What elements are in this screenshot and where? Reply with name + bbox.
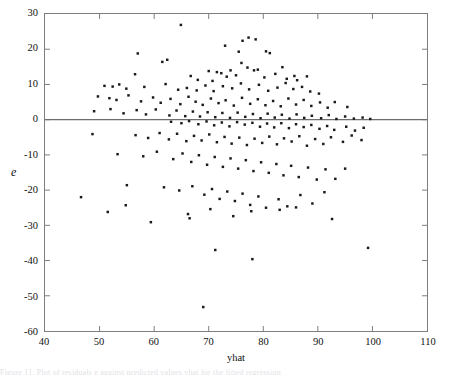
ytick-label-30: 30: [20, 8, 38, 19]
xtick-label-90: 90: [313, 337, 324, 348]
xtick-label-60: 60: [148, 337, 159, 348]
xtick-label-50: 50: [94, 337, 105, 348]
ytick-label-n20: -20: [14, 185, 38, 196]
ytick-label-n50: -50: [14, 291, 38, 302]
plot-frame: [44, 13, 428, 332]
residual-plot-figure: 30 20 10 0 -10 -20 -30 -40 -50 -60 40 50…: [0, 0, 449, 375]
ytick-label-n10: -10: [14, 150, 38, 161]
x-axis-label: yhat: [227, 352, 245, 363]
ytick-label-n60: -60: [14, 327, 38, 338]
scatter-canvas: [45, 14, 427, 331]
figure-caption: Figure 11. Plot of residuals e against p…: [0, 368, 449, 375]
ytick-label-10: 10: [20, 79, 38, 90]
xtick-label-110: 110: [420, 337, 435, 348]
ytick-label-0: 0: [20, 114, 38, 125]
xtick-label-100: 100: [365, 337, 381, 348]
y-axis-label: e: [11, 165, 16, 180]
xtick-label-70: 70: [203, 337, 214, 348]
ytick-label-20: 20: [20, 43, 38, 54]
ytick-label-n40: -40: [14, 256, 38, 267]
xtick-label-80: 80: [258, 337, 269, 348]
ytick-label-n30: -30: [14, 220, 38, 231]
xtick-label-40: 40: [39, 337, 50, 348]
